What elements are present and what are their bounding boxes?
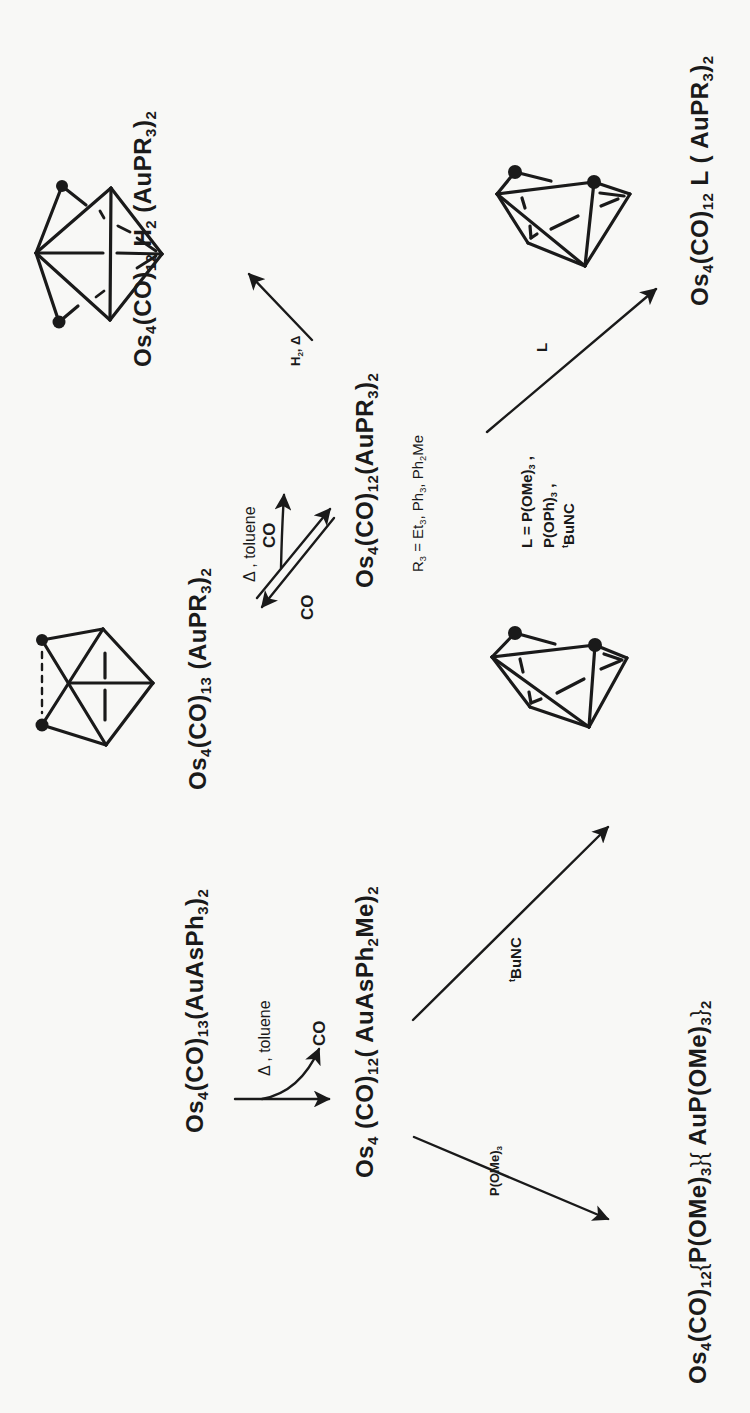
formula-segment: 12 xyxy=(365,1058,381,1076)
formula-segment: Me xyxy=(409,435,426,456)
formula-segment: t xyxy=(560,545,570,548)
tetrahedral-cluster-l-structure xyxy=(497,165,630,266)
formula-segment: 3 xyxy=(195,906,211,915)
formula-segment: 4 xyxy=(365,546,381,555)
formula-segment: Δ , toluene xyxy=(241,506,258,582)
formula-segment: { xyxy=(686,1263,711,1271)
formula-segment: Os xyxy=(684,1351,711,1384)
compound-pome3-product: Os4(CO)12{P(OMe)3}{ AuP(OMe)3}2 xyxy=(686,1000,710,1384)
formula-segment: (AuAsPh xyxy=(181,915,208,1020)
formula-segment: 12 xyxy=(700,193,716,211)
compound-co13-aupr3: Os4(CO)13 (AuPR3)2 xyxy=(186,568,210,790)
formula-segment: 3 xyxy=(418,488,428,493)
formula-segment: L = P(OMe) xyxy=(518,470,535,549)
formula-segment: 2 xyxy=(418,456,428,461)
formula-segment: Os xyxy=(351,555,378,588)
formula-segment: 3 xyxy=(418,556,428,561)
h2-heat-arrow xyxy=(249,274,312,340)
formula-segment: R xyxy=(409,561,426,572)
formula-segment: 4 xyxy=(195,1091,211,1100)
compound-l-product: Os4(CO)12 L ( AuPR3)2 xyxy=(688,55,712,306)
compound-h2-product: Os4(CO)12 H2 (AuPR3)2 xyxy=(131,111,155,367)
formula-segment: 2 xyxy=(296,352,305,356)
formula-segment: 2 xyxy=(698,1000,714,1009)
h2-heat-label: H2, Δ xyxy=(289,336,302,366)
pome3-arrow xyxy=(414,1137,608,1219)
l-definition-line-2: P(OPh)3 , xyxy=(541,484,556,548)
co-loss-label-top: CO xyxy=(261,523,278,549)
scheme-graphics xyxy=(0,0,750,1413)
formula-segment: P(OMe) xyxy=(487,1151,502,1197)
l-reagent-label: L xyxy=(534,343,549,352)
formula-segment: (AuPR xyxy=(184,594,211,677)
formula-segment: 4 xyxy=(143,325,159,334)
formula-segment: 13 xyxy=(195,1020,211,1038)
reaction-scheme: Os4(CO)12 H2 (AuPR3)2 Os4(CO)13 (AuPR3)2… xyxy=(0,0,750,1413)
formula-segment: 3 xyxy=(698,1167,714,1176)
formula-segment: ) xyxy=(351,382,378,391)
formula-segment: 2 xyxy=(365,373,381,382)
compound-intermediate-auasph2me: Os4 (CO)12( AuAsPh2Me)2 xyxy=(353,886,377,1178)
formula-segment: 2 xyxy=(365,886,381,895)
formula-segment: (CO) xyxy=(684,1288,711,1342)
formula-segment: 3 xyxy=(527,464,537,469)
heat-toluene-label-bottom: Δ , toluene xyxy=(257,1000,273,1076)
compound-start-auasph3: Os4(CO)13(AuAsPh3)2 xyxy=(183,889,207,1133)
formula-segment: (CO) xyxy=(351,492,378,546)
tbunc-arrow xyxy=(413,827,608,1020)
formula-segment: Os xyxy=(351,1145,378,1178)
formula-segment: P(OPh) xyxy=(540,497,557,548)
formula-segment: P(OMe) xyxy=(684,1176,711,1263)
butterfly-cluster-co13-structure xyxy=(36,629,154,745)
formula-segment: 4 xyxy=(198,748,214,757)
formula-segment: Me) xyxy=(351,895,378,938)
formula-segment: , Δ xyxy=(288,336,303,353)
formula-segment: Os xyxy=(181,1100,208,1133)
formula-segment: }{ xyxy=(686,1152,711,1167)
formula-segment: H xyxy=(129,229,156,254)
formula-segment: 2 xyxy=(198,568,214,577)
formula-segment: t xyxy=(507,979,517,982)
formula-segment: 2 xyxy=(365,938,381,947)
formula-segment: } xyxy=(686,1009,711,1017)
l-definition-line-3: tBuNC xyxy=(561,503,576,548)
formula-segment: ) xyxy=(686,64,713,73)
formula-segment: ) xyxy=(181,898,208,907)
formula-segment: 3 xyxy=(700,73,716,82)
formula-segment: 3 xyxy=(365,390,381,399)
formula-segment: ( AuAsPh xyxy=(351,946,378,1057)
formula-segment: , Ph xyxy=(409,493,426,520)
formula-segment: , xyxy=(540,484,557,492)
formula-segment: 2 xyxy=(143,220,159,229)
compound-co12-aupr3: Os4(CO)12(AuPR3)2 xyxy=(353,373,377,588)
formula-segment: , Ph xyxy=(409,461,426,488)
formula-segment: ) xyxy=(129,120,156,129)
formula-segment: 4 xyxy=(365,1136,381,1145)
tetrahedral-cluster-tbunc-structure xyxy=(492,626,627,727)
formula-segment: (CO) xyxy=(686,210,713,264)
formula-segment: 3 xyxy=(143,128,159,137)
l-substitution-arrow xyxy=(487,289,656,432)
formula-segment: 3 xyxy=(418,520,428,525)
formula-segment: 2 xyxy=(143,111,159,120)
formula-segment: ) xyxy=(184,576,211,585)
formula-segment: 3 xyxy=(495,1146,504,1150)
formula-segment: Os xyxy=(129,334,156,367)
formula-segment: (CO) xyxy=(351,1075,378,1136)
co-loss-label-bottom: CO xyxy=(311,1021,328,1047)
formula-segment: BuNC xyxy=(560,503,577,545)
formula-segment: 12 xyxy=(143,254,159,272)
formula-segment: 12 xyxy=(698,1271,714,1289)
formula-segment: Os xyxy=(686,273,713,306)
formula-segment: (AuPR xyxy=(129,137,156,220)
co-loss-curved-arrow-top xyxy=(281,495,284,568)
formula-segment: 2 xyxy=(195,889,211,898)
r3-definition-label: R3 = Et3, Ph3, Ph2Me xyxy=(410,435,425,572)
formula-segment: L ( AuPR xyxy=(686,82,713,193)
formula-segment: 3 xyxy=(698,1017,714,1026)
formula-segment: AuP(OMe) xyxy=(684,1025,711,1151)
heat-toluene-label-top: Δ , toluene xyxy=(242,506,258,582)
formula-segment: 4 xyxy=(700,264,716,273)
formula-segment: 3 xyxy=(198,585,214,594)
formula-segment: 3 xyxy=(549,492,559,497)
